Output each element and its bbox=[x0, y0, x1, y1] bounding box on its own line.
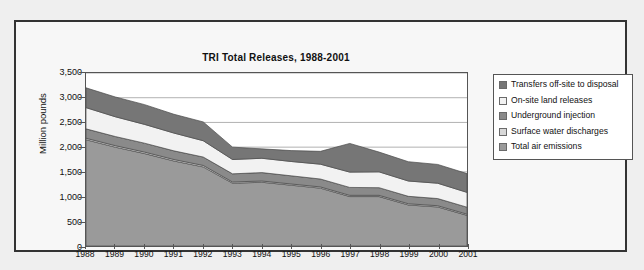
y-tick-mark bbox=[79, 147, 85, 148]
legend-item[interactable]: Transfers off-site to disposal bbox=[499, 80, 628, 90]
y-tick-mark bbox=[79, 222, 85, 223]
x-tick-label: 1999 bbox=[400, 249, 419, 259]
legend-item[interactable]: On-site land releases bbox=[499, 96, 628, 106]
legend-item-label: Total air emissions bbox=[511, 142, 582, 152]
x-tick-label: 1995 bbox=[282, 249, 301, 259]
y-tick-label: 1,000 bbox=[42, 192, 82, 202]
x-tick-label: 1990 bbox=[134, 249, 153, 259]
legend-swatch-icon bbox=[499, 143, 507, 151]
x-tick-mark bbox=[409, 244, 410, 249]
legend-swatch-icon bbox=[499, 112, 507, 120]
x-tick-label: 1994 bbox=[252, 249, 271, 259]
y-tick-label: 1,500 bbox=[42, 167, 82, 177]
x-tick-mark bbox=[468, 244, 469, 249]
legend-item-label: On-site land releases bbox=[511, 96, 592, 106]
x-tick-mark bbox=[85, 244, 86, 249]
y-tick-mark bbox=[79, 97, 85, 98]
x-tick-label: 1993 bbox=[223, 249, 242, 259]
x-tick-label: 1996 bbox=[311, 249, 330, 259]
x-tick-mark bbox=[321, 244, 322, 249]
x-axis-ticks: 1988198919901991199219931994199519961997… bbox=[85, 249, 468, 265]
x-tick-mark bbox=[291, 244, 292, 249]
x-tick-label: 1997 bbox=[341, 249, 360, 259]
y-tick-mark bbox=[79, 122, 85, 123]
x-tick-label: 2001 bbox=[458, 249, 477, 259]
legend-swatch-icon bbox=[499, 128, 507, 136]
legend-swatch-icon bbox=[499, 97, 507, 105]
y-tick-mark bbox=[79, 197, 85, 198]
chart-frame: TRI Total Releases, 1988-2001 Million po… bbox=[14, 20, 627, 252]
chart-page: TRI Total Releases, 1988-2001 Million po… bbox=[0, 0, 644, 270]
legend-item-label: Underground injection bbox=[511, 111, 595, 121]
x-tick-mark bbox=[439, 244, 440, 249]
legend-item-label: Surface water discharges bbox=[511, 127, 608, 137]
chart-legend: Transfers off-site to disposalOn-site la… bbox=[493, 74, 633, 160]
y-tick-label: 2,000 bbox=[42, 142, 82, 152]
x-tick-mark bbox=[232, 244, 233, 249]
y-tick-label: 3,000 bbox=[42, 92, 82, 102]
x-tick-label: 1998 bbox=[370, 249, 389, 259]
x-tick-label: 2000 bbox=[429, 249, 448, 259]
x-tick-label: 1991 bbox=[164, 249, 183, 259]
legend-item-label: Transfers off-site to disposal bbox=[511, 80, 618, 90]
x-tick-mark bbox=[350, 244, 351, 249]
y-tick-mark bbox=[79, 247, 85, 248]
x-tick-mark bbox=[380, 244, 381, 249]
x-tick-label: 1988 bbox=[75, 249, 94, 259]
y-tick-mark bbox=[79, 72, 85, 73]
legend-item[interactable]: Total air emissions bbox=[499, 142, 628, 152]
y-tick-label: 2,500 bbox=[42, 117, 82, 127]
y-tick-mark bbox=[79, 172, 85, 173]
legend-item[interactable]: Surface water discharges bbox=[499, 127, 628, 137]
x-tick-mark bbox=[203, 244, 204, 249]
x-tick-mark bbox=[262, 244, 263, 249]
x-tick-label: 1992 bbox=[193, 249, 212, 259]
plot-area bbox=[85, 72, 468, 247]
legend-item[interactable]: Underground injection bbox=[499, 111, 628, 121]
y-tick-label: 3,500 bbox=[42, 67, 82, 77]
legend-swatch-icon bbox=[499, 81, 507, 89]
y-axis-ticks: 05001,0001,5002,0002,5003,0003,500 bbox=[38, 72, 82, 247]
x-tick-mark bbox=[144, 244, 145, 249]
x-tick-mark bbox=[114, 244, 115, 249]
x-tick-label: 1989 bbox=[105, 249, 124, 259]
stacked-area-svg bbox=[86, 73, 467, 246]
y-tick-label: 500 bbox=[42, 217, 82, 227]
chart-title: TRI Total Releases, 1988-2001 bbox=[76, 52, 476, 63]
x-tick-mark bbox=[173, 244, 174, 249]
